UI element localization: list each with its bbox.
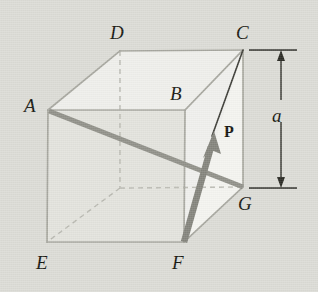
geometry-figure: A B C D E F G P a — [0, 0, 318, 292]
dimension-arrowhead-top — [277, 50, 285, 61]
cube-face-front — [47, 110, 185, 242]
cube-edge-D-C — [120, 50, 243, 51]
cube-edge-E-A — [47, 110, 48, 242]
vertex-label-G: G — [238, 194, 252, 213]
vertex-label-D: D — [110, 23, 124, 42]
vertex-label-F: F — [172, 253, 184, 272]
vertex-label-B: B — [170, 84, 182, 103]
vertex-label-C: C — [236, 23, 249, 42]
vertex-label-E: E — [36, 253, 48, 272]
cube-diagram-svg — [0, 0, 318, 292]
dimension-arrowhead-bottom — [277, 177, 285, 188]
cube-edge-B-F — [184, 110, 185, 242]
vector-label-P: P — [224, 124, 234, 140]
vertex-label-A: A — [24, 96, 36, 115]
dimension-label-a: a — [272, 106, 282, 125]
